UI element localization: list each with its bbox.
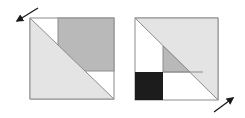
right-block-black-square [135, 72, 163, 100]
left-quilt-block [30, 18, 114, 99]
diagram-canvas [0, 0, 245, 118]
right-quilt-block [135, 18, 218, 100]
